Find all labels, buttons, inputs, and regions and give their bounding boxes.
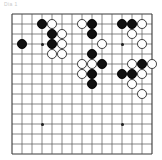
black-stone[interactable]: [87, 79, 97, 89]
black-stone[interactable]: [117, 19, 127, 29]
diagram-caption: Dia 1: [4, 1, 18, 7]
black-stone[interactable]: [87, 49, 97, 59]
black-stone[interactable]: [17, 39, 27, 49]
hoshi-point: [41, 123, 44, 126]
hoshi-point: [121, 43, 124, 46]
white-stone[interactable]: [47, 49, 57, 59]
white-stone[interactable]: [57, 29, 67, 39]
white-stone[interactable]: [77, 59, 87, 69]
white-stone[interactable]: [87, 59, 97, 69]
white-stone[interactable]: [137, 69, 147, 79]
black-stone[interactable]: [47, 39, 57, 49]
white-stone[interactable]: [127, 29, 137, 39]
black-stone[interactable]: [127, 69, 137, 79]
white-stone[interactable]: [127, 59, 137, 69]
black-stone[interactable]: [87, 29, 97, 39]
black-stone[interactable]: [137, 59, 147, 69]
go-board[interactable]: [0, 8, 162, 160]
hoshi-point: [41, 43, 44, 46]
black-stone[interactable]: [87, 19, 97, 29]
board-grid: [0, 8, 162, 160]
black-stone[interactable]: [47, 29, 57, 39]
black-stone[interactable]: [117, 69, 127, 79]
hoshi-point: [121, 123, 124, 126]
white-stone[interactable]: [57, 39, 67, 49]
black-stone[interactable]: [127, 19, 137, 29]
white-stone[interactable]: [57, 49, 67, 59]
white-stone[interactable]: [147, 59, 157, 69]
black-stone[interactable]: [87, 69, 97, 79]
white-stone[interactable]: [137, 19, 147, 29]
white-stone[interactable]: [47, 19, 57, 29]
black-stone[interactable]: [37, 19, 47, 29]
white-stone[interactable]: [137, 89, 147, 99]
go-diagram: Dia 1: [0, 0, 162, 160]
white-stone[interactable]: [77, 19, 87, 29]
black-stone[interactable]: [97, 59, 107, 69]
white-stone[interactable]: [77, 69, 87, 79]
white-stone[interactable]: [137, 39, 147, 49]
white-stone[interactable]: [97, 39, 107, 49]
white-stone[interactable]: [127, 79, 137, 89]
